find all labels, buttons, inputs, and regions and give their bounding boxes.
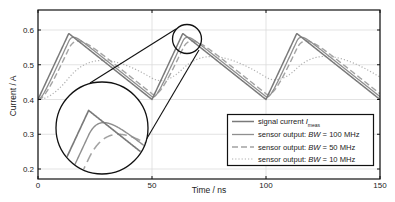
x-axis-label: Time / ns — [192, 185, 227, 195]
x-tick-label: 100 — [259, 181, 273, 190]
legend: signal current Imeassensor output: BW = … — [228, 115, 374, 166]
zoom-source-circle — [173, 25, 202, 54]
y-tick-label: 0.4 — [23, 96, 35, 105]
y-axis-label: Current / A — [8, 75, 18, 116]
y-tick-label: 0.3 — [23, 130, 35, 139]
chart: 0501001500.20.30.40.50.6 Time / ns Curre… — [0, 0, 395, 202]
legend-label: sensor output: BW = 100 MHz — [258, 130, 360, 139]
y-tick-label: 0.6 — [23, 26, 35, 35]
legend-label: sensor output: BW = 10 MHz — [258, 155, 356, 164]
x-tick-label: 50 — [148, 181, 157, 190]
legend-label: sensor output: BW = 50 MHz — [258, 143, 356, 152]
y-tick-label: 0.2 — [23, 165, 35, 174]
y-tick-label: 0.5 — [23, 61, 35, 70]
x-tick-label: 0 — [36, 181, 41, 190]
x-tick-label: 150 — [373, 181, 387, 190]
